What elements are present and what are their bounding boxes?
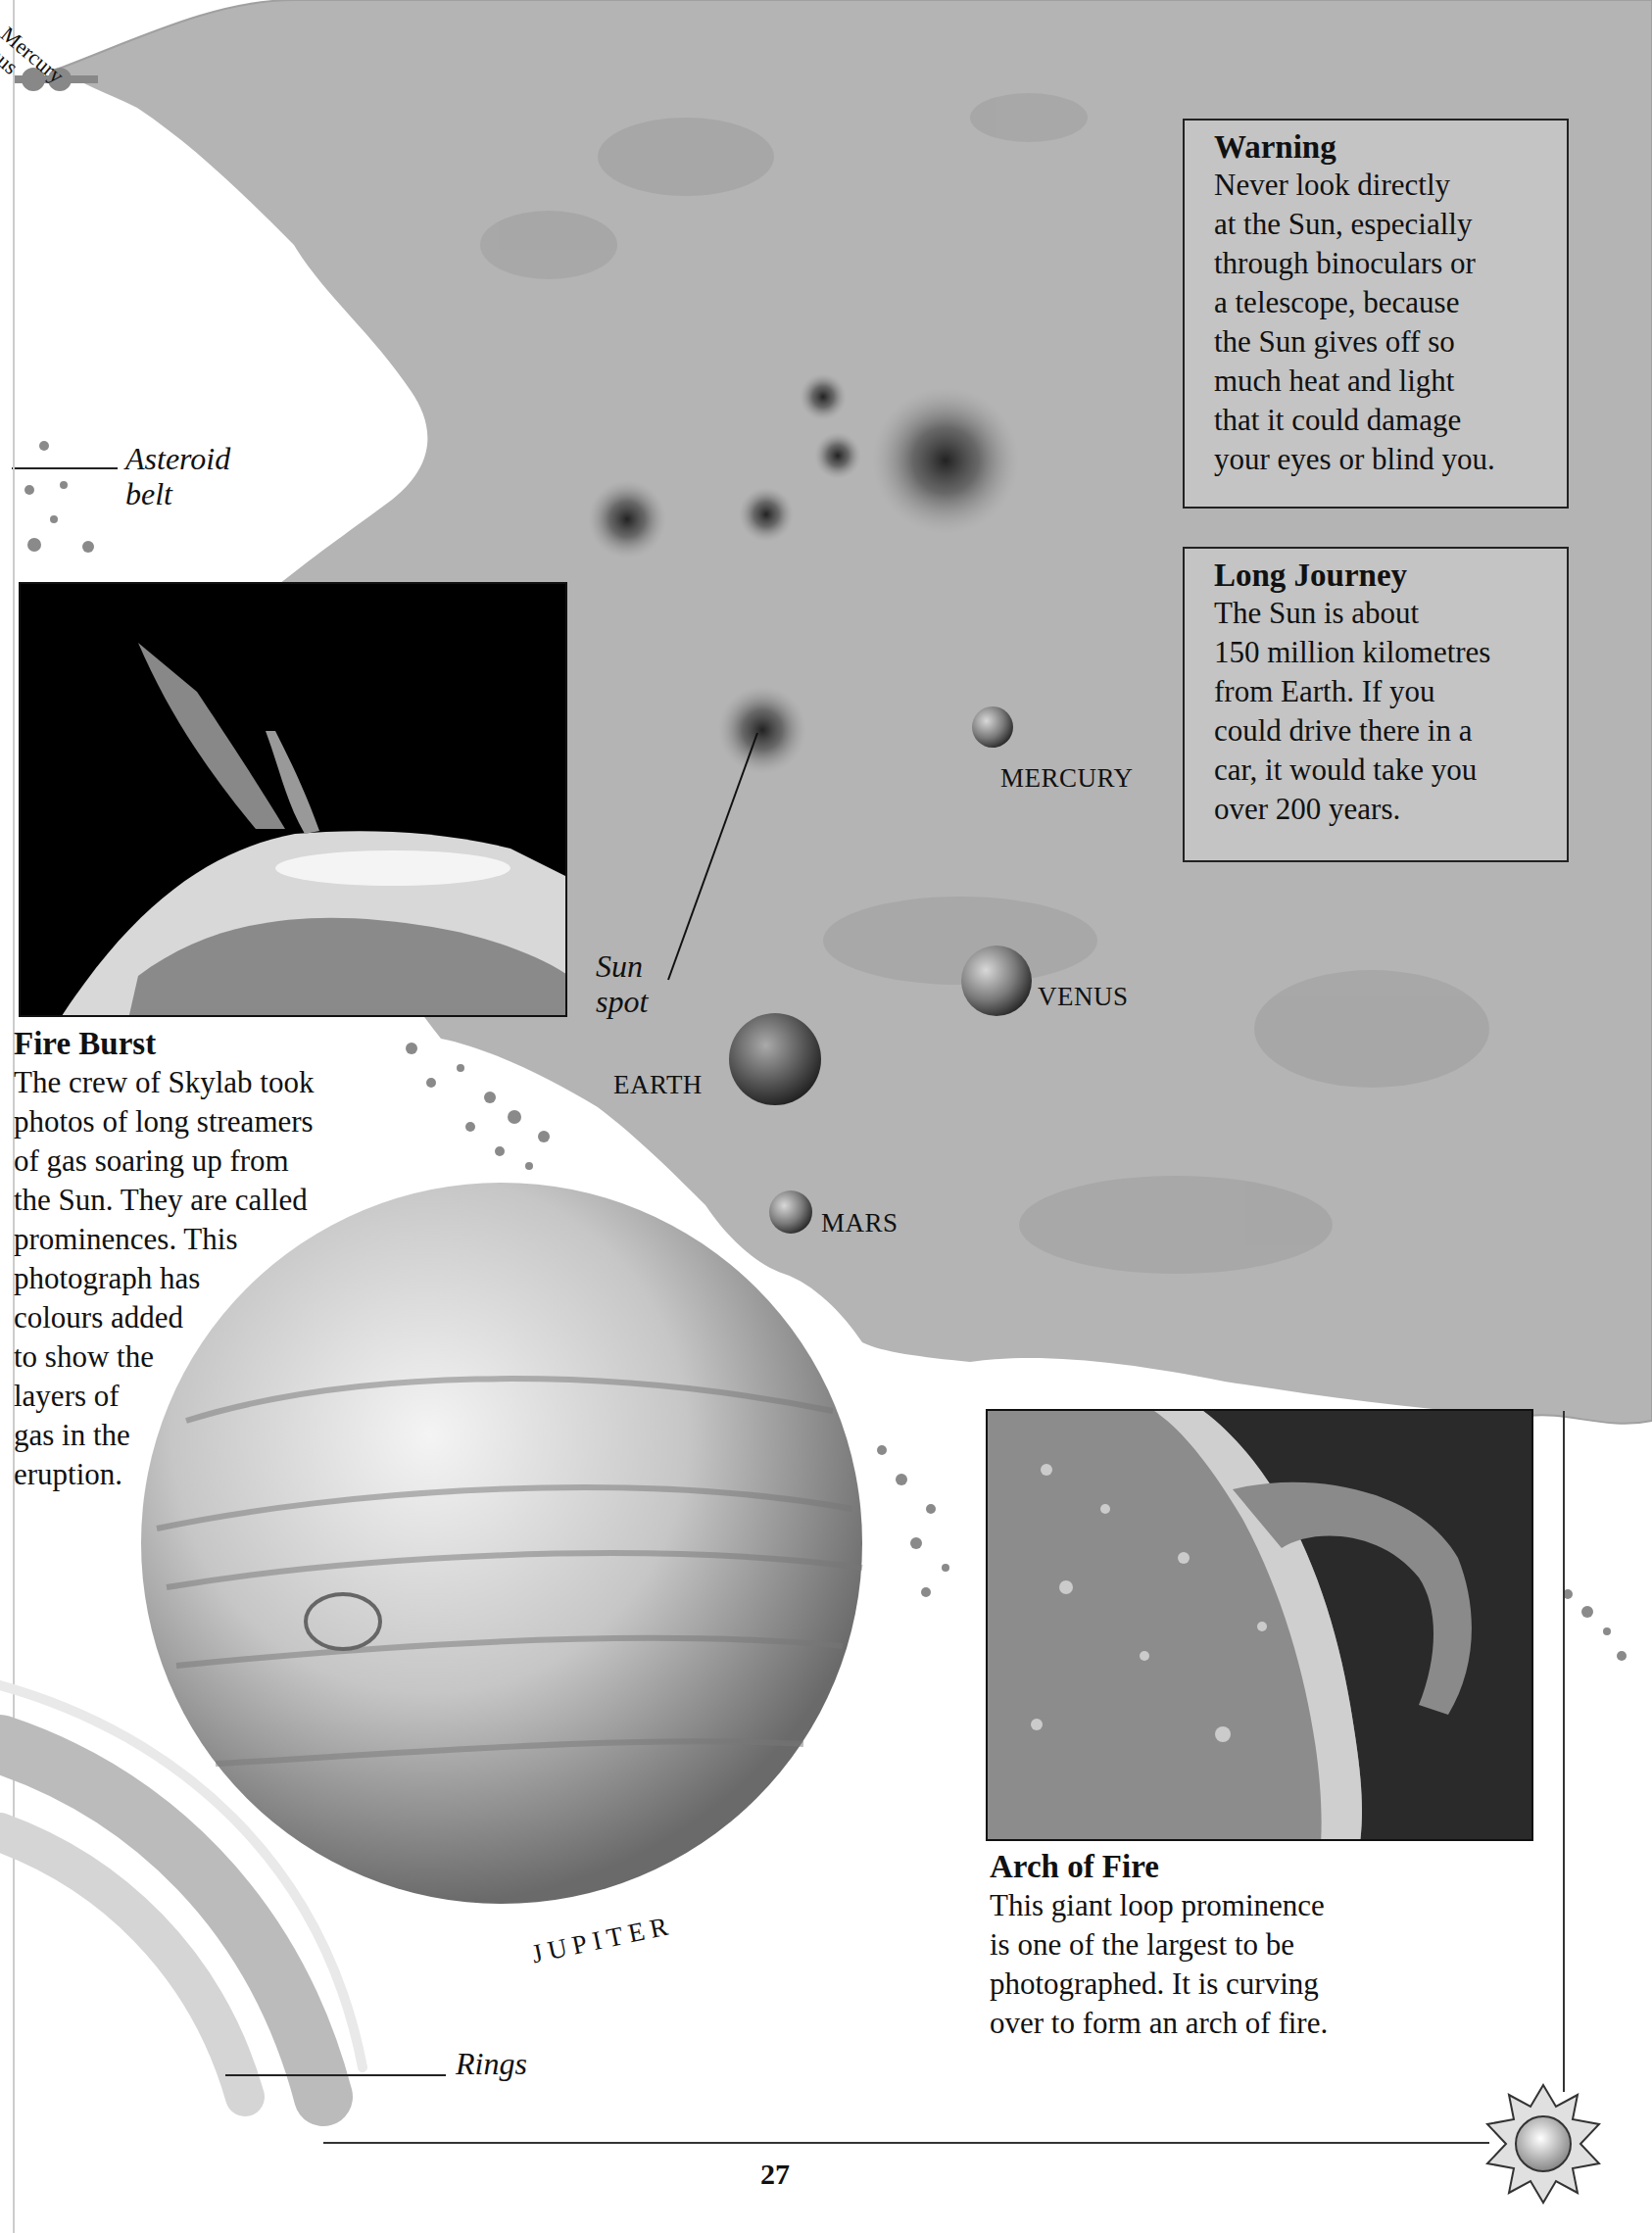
arch-of-fire-body: This giant loop prominence is one of the…: [990, 1886, 1421, 2043]
arch-of-fire-caption: Arch of Fire This giant loop prominence …: [990, 1847, 1421, 2043]
sun-spot-label: Sun spot: [596, 948, 648, 1019]
footer-rule: [323, 2142, 1489, 2144]
fire-burst-photo: [19, 582, 567, 1017]
warning-box: Warning Never look directly at the Sun, …: [1183, 119, 1569, 509]
arch-of-fire-photo: [986, 1409, 1533, 1841]
prominence-image: [21, 584, 567, 1017]
fire-burst-body: The crew of Skylab took photos of long s…: [14, 1063, 406, 1494]
long-journey-body: The Sun is about 150 million kilometres …: [1214, 594, 1567, 829]
loop-prominence-image: [988, 1411, 1533, 1841]
arch-of-fire-title: Arch of Fire: [990, 1847, 1421, 1886]
long-journey-box: Long Journey The Sun is about 150 millio…: [1183, 547, 1569, 862]
rings-label: Rings: [456, 2046, 527, 2081]
fire-burst-caption: Fire Burst The crew of Skylab took photo…: [14, 1024, 406, 1494]
planet-label-mars: MARS: [821, 1208, 899, 1238]
long-journey-title: Long Journey: [1214, 557, 1567, 594]
fire-burst-title: Fire Burst: [14, 1024, 406, 1063]
warning-title: Warning: [1214, 128, 1567, 166]
planet-label-earth: EARTH: [613, 1070, 703, 1100]
asteroid-belt-label: Asteroid belt: [125, 441, 230, 511]
warning-body: Never look directly at the Sun, especial…: [1214, 166, 1567, 479]
planet-label-mercury: MERCURY: [1000, 763, 1134, 794]
page-number: 27: [760, 2158, 790, 2191]
planet-label-venus: VENUS: [1038, 982, 1129, 1012]
